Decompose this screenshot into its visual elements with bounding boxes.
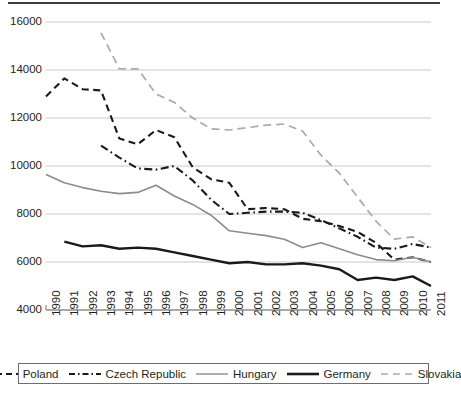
x-tick-label: 2009 — [399, 290, 411, 316]
legend-label: Slovakia — [418, 368, 461, 380]
x-tick-label: 1990 — [51, 290, 63, 316]
x-tick-label: 1993 — [106, 290, 118, 316]
legend-label: Germany — [324, 368, 371, 380]
series-line-hungary — [46, 174, 431, 262]
x-tick-label: 1995 — [143, 290, 155, 316]
legend-line-swatch — [196, 369, 228, 379]
y-tick-label: 10000 — [0, 160, 42, 172]
x-tick-label: 1994 — [124, 290, 136, 316]
x-tick-label: 1998 — [198, 290, 210, 316]
legend-item-czech-republic[interactable]: Czech Republic — [69, 368, 187, 380]
x-tick-label: 2006 — [344, 290, 356, 316]
legend-label: Hungary — [233, 368, 276, 380]
x-tick-label: 2000 — [234, 290, 246, 316]
x-tick-label: 2003 — [289, 290, 301, 316]
legend-label: Poland — [23, 368, 59, 380]
y-tick-label: 12000 — [0, 112, 42, 124]
legend-line-swatch — [0, 369, 18, 379]
legend-label: Czech Republic — [106, 368, 187, 380]
y-tick-label: 6000 — [0, 256, 42, 268]
x-tick-label: 1997 — [179, 290, 191, 316]
x-tick-label: 1996 — [161, 290, 173, 316]
x-tick-label: 2008 — [381, 290, 393, 316]
x-tick-label: 2005 — [326, 290, 338, 316]
chart-legend: PolandCzech RepublicHungaryGermanySlovak… — [18, 363, 429, 384]
y-tick-label: 16000 — [0, 16, 42, 28]
y-tick-label: 14000 — [0, 64, 42, 76]
legend-item-germany[interactable]: Germany — [287, 368, 371, 380]
x-tick-label: 2002 — [271, 290, 283, 316]
x-tick-label: 2011 — [436, 291, 448, 316]
x-tick-label: 2007 — [363, 290, 375, 316]
y-tick-label: 8000 — [0, 208, 42, 220]
x-tick-label: 2010 — [418, 290, 430, 316]
x-tick-label: 1991 — [69, 290, 81, 316]
series-line-slovakia — [101, 33, 431, 248]
series-line-poland — [46, 78, 431, 262]
legend-line-swatch — [381, 369, 413, 379]
y-tick-label: 4000 — [0, 304, 42, 316]
legend-line-swatch — [69, 369, 101, 379]
legend-item-poland[interactable]: Poland — [0, 368, 59, 380]
legend-item-slovakia[interactable]: Slovakia — [381, 368, 461, 380]
x-tick-label: 1999 — [216, 290, 228, 316]
legend-line-swatch — [287, 369, 319, 379]
series-line-czech-republic — [101, 146, 431, 249]
legend-item-hungary[interactable]: Hungary — [196, 368, 276, 380]
x-tick-label: 2001 — [253, 290, 265, 316]
series-line-germany — [64, 242, 431, 286]
x-tick-label: 2004 — [308, 290, 320, 316]
x-tick-label: 1992 — [88, 290, 100, 316]
